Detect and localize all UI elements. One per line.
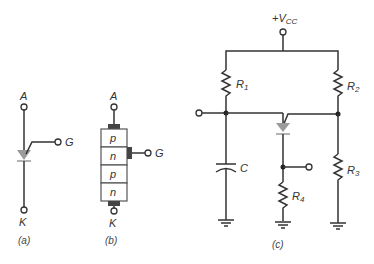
cathode-label: K: [109, 217, 117, 229]
gate-terminal: [145, 150, 151, 156]
r3-label: R3: [347, 164, 360, 178]
output-terminal: [306, 164, 312, 170]
layer-n1: n: [110, 150, 116, 162]
capacitor-label: C: [240, 162, 248, 174]
resistor-r4: [279, 182, 287, 221]
scr-triangle-icon: [276, 123, 290, 132]
resistor-r3: [334, 154, 342, 223]
caption-a: (a): [18, 235, 30, 246]
anode-label: A: [109, 90, 117, 102]
diode-triangle-icon: [17, 150, 31, 160]
r4-label: R4: [292, 190, 305, 204]
gate-terminal: [55, 139, 61, 145]
cathode-terminal: [21, 207, 27, 213]
anode-terminal: [111, 104, 117, 110]
scr-circuit-c: +VCC R1 R2 R4: [196, 12, 360, 250]
gate-label: G: [155, 147, 164, 159]
r2-label: R2: [347, 80, 360, 94]
vcc-label: +VCC: [272, 12, 298, 26]
resistor-r2: [334, 70, 342, 114]
caption-c: (c): [272, 239, 284, 250]
cathode-label: K: [19, 216, 27, 228]
r1-label: R1: [236, 78, 248, 92]
layer-p2: p: [109, 168, 116, 180]
gate-label: G: [65, 136, 74, 148]
layer-n2: n: [110, 186, 116, 198]
ground-icon: [218, 220, 234, 226]
ground-icon: [275, 222, 291, 228]
ground-icon: [330, 223, 346, 229]
scr-symbol-a: A G K (a): [17, 90, 74, 246]
layer-p1: p: [109, 132, 116, 144]
input-terminal: [196, 110, 202, 116]
scr-structure-b: A p n p n G K (b): [101, 90, 164, 246]
anode-label: A: [19, 90, 27, 102]
scr-diagram: A G K (a) A p n p n G K (b): [0, 0, 374, 264]
caption-b: (b): [105, 235, 117, 246]
vcc-terminal: [280, 29, 286, 35]
cathode-terminal: [111, 208, 117, 214]
anode-terminal: [21, 104, 27, 110]
resistor-r1: [222, 70, 230, 113]
